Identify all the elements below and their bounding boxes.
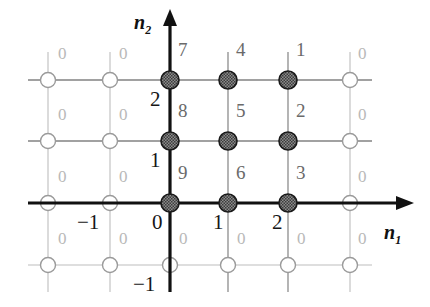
y-tick-2: 2 (150, 89, 161, 110)
x-tick-0: 0 (152, 212, 163, 233)
open-node (41, 258, 56, 273)
grid-lines-inner (28, 52, 372, 292)
open-node (343, 134, 358, 149)
filled-node (161, 132, 179, 150)
node-index-9: 9 (178, 163, 188, 182)
open-node (103, 258, 118, 273)
lattice-diagram: 7 4 1 8 5 2 9 6 3 0 0 0 0 0 0 0 0 0 0 0 … (0, 0, 430, 307)
axes (28, 9, 414, 292)
x-tick-2: 2 (272, 212, 283, 233)
x-axis-arrowhead (396, 196, 414, 210)
zero-cell-label: 0 (119, 106, 128, 123)
zero-cell-label: 0 (58, 45, 67, 62)
zero-cell-label: 0 (237, 230, 246, 247)
open-node (103, 134, 118, 149)
zero-cell-label: 0 (119, 45, 128, 62)
zero-cell-label: 0 (358, 230, 367, 247)
zero-cell-label: 0 (119, 230, 128, 247)
open-node (221, 258, 236, 273)
filled-node (161, 194, 179, 212)
filled-node (279, 71, 297, 89)
y-axis-arrowhead (163, 9, 177, 26)
filled-node (161, 71, 179, 89)
zero-cell-label: 0 (358, 168, 367, 185)
zero-cell-label: 0 (358, 45, 367, 62)
node-index-4: 4 (236, 40, 246, 59)
x-axis-label-text: n (384, 221, 395, 243)
zero-cell-label: 0 (58, 168, 67, 185)
node-index-8: 8 (178, 101, 188, 120)
node-index-7: 7 (178, 40, 188, 59)
x-tick-minus1: −1 (77, 212, 99, 233)
y-axis-label: n2 (134, 12, 151, 36)
open-node (103, 73, 118, 88)
node-index-3: 3 (296, 163, 306, 182)
filled-node (219, 132, 237, 150)
open-node (281, 258, 296, 273)
open-node (41, 134, 56, 149)
zero-cell-label: 0 (179, 230, 188, 247)
x-axis-label-subscript: 1 (395, 233, 401, 247)
node-index-1: 1 (296, 40, 306, 59)
zero-cell-label: 0 (297, 230, 306, 247)
filled-node (279, 132, 297, 150)
y-tick-1: 1 (150, 150, 161, 171)
zero-cell-label: 0 (358, 106, 367, 123)
zero-cell-label: 0 (58, 230, 67, 247)
zero-cell-label: 0 (119, 168, 128, 185)
x-tick-1: 1 (213, 212, 224, 233)
node-index-5: 5 (236, 101, 246, 120)
y-tick-minus1: −1 (133, 274, 155, 295)
open-nodes (41, 73, 358, 273)
open-node (343, 73, 358, 88)
node-index-2: 2 (296, 101, 306, 120)
x-axis-label: n1 (384, 222, 401, 246)
grid-lines-outer (28, 52, 372, 292)
zero-cell-label: 0 (58, 106, 67, 123)
node-index-6: 6 (236, 163, 246, 182)
y-axis-label-text: n (134, 11, 145, 33)
y-axis-label-subscript: 2 (145, 23, 151, 37)
filled-node (219, 71, 237, 89)
open-node (343, 258, 358, 273)
open-node (41, 73, 56, 88)
